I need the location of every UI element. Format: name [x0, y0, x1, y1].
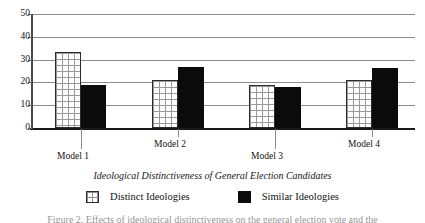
- plot-area: 50 40 30 20 10 0: [0, 0, 425, 135]
- bar-model-1-similar: [81, 85, 106, 128]
- category-tick-model-2: [178, 129, 179, 137]
- clipped-bottom-caption: Figure 2. Effects of ideological distinc…: [0, 214, 425, 223]
- chart-legend: Distinct Ideologies Similar Ideologies: [0, 191, 425, 203]
- legend-label-similar-ideologies: Similar Ideologies: [262, 191, 339, 203]
- axis-caption: Ideological Distinctiveness of General E…: [0, 170, 425, 182]
- legend-label-distinct-ideologies: Distinct Ideologies: [110, 191, 190, 203]
- figure-bar-chart: 50 40 30 20 10 0 Model 1 Model 2 Mod: [0, 0, 425, 223]
- category-label-model-3: Model 3: [251, 151, 283, 162]
- bar-model-1-distinct: [55, 52, 81, 128]
- bar-model-3-similar: [275, 87, 301, 128]
- bars-layer: [0, 0, 425, 135]
- category-tick-model-4: [372, 129, 373, 137]
- category-label-model-4: Model 4: [348, 139, 380, 150]
- bar-model-2-similar: [178, 67, 204, 128]
- category-label-model-1: Model 1: [57, 151, 89, 162]
- category-tick-model-3: [275, 129, 276, 149]
- bar-model-4-distinct: [346, 80, 372, 128]
- legend-item-distinct-ideologies: Distinct Ideologies: [86, 191, 190, 203]
- bar-model-4-similar: [372, 68, 398, 128]
- bar-model-2-distinct: [152, 80, 178, 128]
- category-tick-model-1: [81, 129, 82, 149]
- solid-black-swatch-icon: [238, 191, 251, 203]
- category-label-model-2: Model 2: [154, 139, 186, 150]
- bar-model-3-distinct: [249, 85, 275, 128]
- grid-pattern-swatch-icon: [86, 191, 99, 203]
- legend-item-similar-ideologies: Similar Ideologies: [238, 191, 339, 203]
